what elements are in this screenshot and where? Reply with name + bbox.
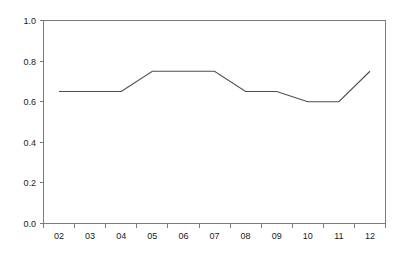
x-axis-tick-label: 07 <box>209 231 219 241</box>
x-axis-ticks <box>44 224 386 228</box>
y-axis-tick-label: 1.0 <box>23 16 36 26</box>
x-axis-tick-label: 12 <box>365 231 375 241</box>
x-axis-tick-label: 06 <box>178 231 188 241</box>
x-axis-tick-label: 04 <box>116 231 126 241</box>
y-axis-tick-label: 0.0 <box>23 219 36 229</box>
x-axis-labels: 02 03 04 05 06 07 08 09 10 11 12 <box>54 231 375 241</box>
y-axis-tick-label: 0.8 <box>23 57 36 67</box>
y-axis-tick-label: 0.6 <box>23 97 36 107</box>
x-axis-tick-label: 10 <box>303 231 313 241</box>
data-series-line <box>59 71 370 101</box>
line-chart: 1.0 0.8 0.6 0.4 0.2 0.0 02 03 04 <box>0 0 406 261</box>
y-axis-tick-label: 0.4 <box>23 138 36 148</box>
x-axis-tick-label: 02 <box>54 231 64 241</box>
plot-frame <box>44 21 386 224</box>
y-axis-labels: 1.0 0.8 0.6 0.4 0.2 0.0 <box>23 16 36 229</box>
y-axis-tick-label: 0.2 <box>23 178 36 188</box>
x-axis-tick-label: 09 <box>272 231 282 241</box>
chart-canvas: 1.0 0.8 0.6 0.4 0.2 0.0 02 03 04 <box>0 0 406 261</box>
x-axis-tick-label: 11 <box>334 231 343 241</box>
y-axis-ticks <box>40 21 44 224</box>
x-axis-tick-label: 08 <box>241 231 251 241</box>
x-axis-tick-label: 03 <box>85 231 95 241</box>
x-axis-tick-label: 05 <box>147 231 157 241</box>
